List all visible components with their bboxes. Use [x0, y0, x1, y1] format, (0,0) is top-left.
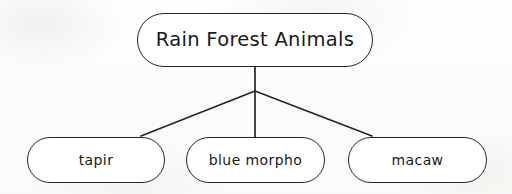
concept-map-diagram: Rain Forest Animals tapir blue morpho ma… [0, 0, 512, 194]
node-child-macaw[interactable]: macaw [348, 137, 487, 183]
node-child-blue-morpho[interactable]: blue morpho [186, 137, 325, 183]
node-child-tapir[interactable]: tapir [27, 137, 165, 183]
node-child-label: macaw [392, 153, 444, 167]
connector-junction-to-tapir [141, 91, 255, 136]
node-root-rain-forest-animals[interactable]: Rain Forest Animals [137, 13, 373, 67]
connector-junction-to-macaw [255, 91, 372, 136]
node-child-label: tapir [79, 153, 114, 167]
node-child-label: blue morpho [209, 153, 302, 167]
node-root-label: Rain Forest Animals [156, 30, 354, 50]
